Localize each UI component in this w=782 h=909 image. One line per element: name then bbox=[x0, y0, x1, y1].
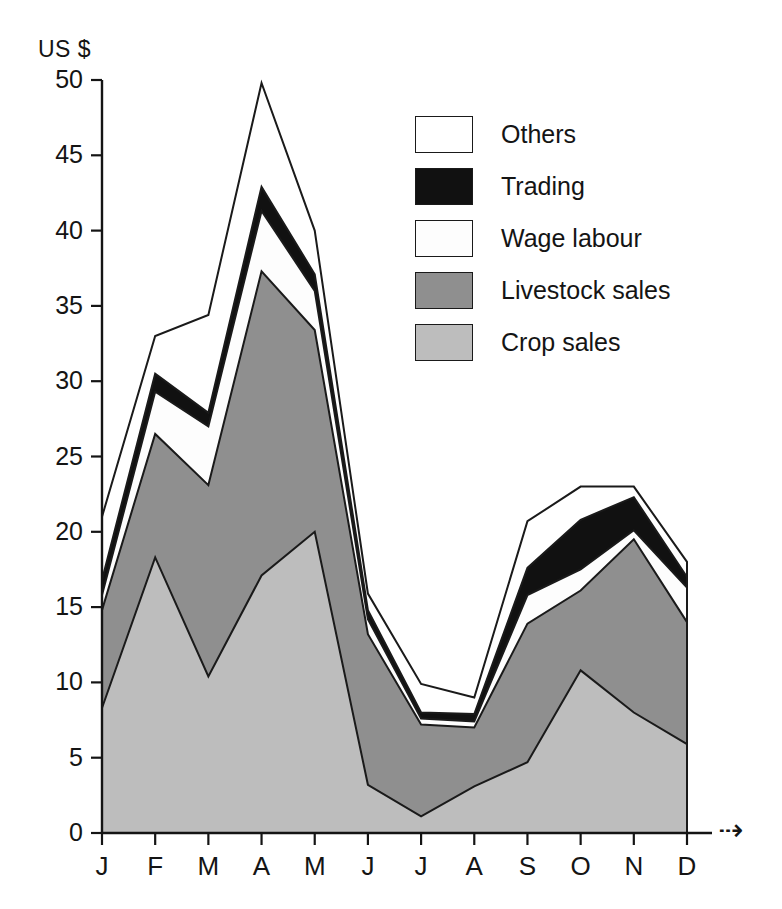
y-tick-label-10: 10 bbox=[29, 667, 83, 696]
x-tick-label-december: D bbox=[667, 851, 707, 882]
x-tick-label-may: M bbox=[295, 851, 335, 882]
y-tick-label-40: 40 bbox=[29, 216, 83, 245]
x-tick-label-february: F bbox=[135, 851, 175, 882]
legend-item-trading[interactable]: Trading bbox=[415, 160, 745, 212]
x-tick-label-june: J bbox=[348, 851, 388, 882]
legend-item-label: Crop sales bbox=[501, 328, 621, 357]
legend-swatch-icon bbox=[415, 272, 473, 309]
x-axis-arrow-icon: ⇢ bbox=[718, 812, 743, 847]
x-tick-label-july: J bbox=[401, 851, 441, 882]
chart-legend: OthersTradingWage labourLivestock salesC… bbox=[415, 108, 745, 368]
y-tick-label-35: 35 bbox=[29, 291, 83, 320]
legend-swatch-icon bbox=[415, 220, 473, 257]
legend-swatch-icon bbox=[415, 116, 473, 153]
x-tick-label-march: M bbox=[188, 851, 228, 882]
stacked-area-chart: US $ 50454035302520151050 JFMAMJJASOND O… bbox=[0, 0, 782, 909]
y-tick-label-25: 25 bbox=[29, 442, 83, 471]
legend-item-label: Others bbox=[501, 120, 576, 149]
legend-item-label: Livestock sales bbox=[501, 276, 671, 305]
y-tick-label-45: 45 bbox=[29, 140, 83, 169]
y-tick-label-15: 15 bbox=[29, 592, 83, 621]
y-tick-label-20: 20 bbox=[29, 517, 83, 546]
y-tick-label-5: 5 bbox=[29, 743, 83, 772]
y-tick-label-0: 0 bbox=[29, 818, 83, 847]
legend-swatch-icon bbox=[415, 324, 473, 361]
x-tick-label-september: S bbox=[507, 851, 547, 882]
legend-swatch-icon bbox=[415, 168, 473, 205]
legend-item-wage-labour[interactable]: Wage labour bbox=[415, 212, 745, 264]
x-tick-label-january: J bbox=[82, 851, 122, 882]
y-tick-label-50: 50 bbox=[29, 65, 83, 94]
legend-item-label: Trading bbox=[501, 172, 585, 201]
legend-item-livestock-sales[interactable]: Livestock sales bbox=[415, 264, 745, 316]
legend-item-label: Wage labour bbox=[501, 224, 642, 253]
x-tick-label-august: A bbox=[454, 851, 494, 882]
x-tick-label-october: O bbox=[561, 851, 601, 882]
y-tick-label-30: 30 bbox=[29, 366, 83, 395]
x-tick-label-november: N bbox=[614, 851, 654, 882]
x-tick-label-april: A bbox=[242, 851, 282, 882]
legend-item-crop-sales[interactable]: Crop sales bbox=[415, 316, 745, 368]
legend-item-others[interactable]: Others bbox=[415, 108, 745, 160]
